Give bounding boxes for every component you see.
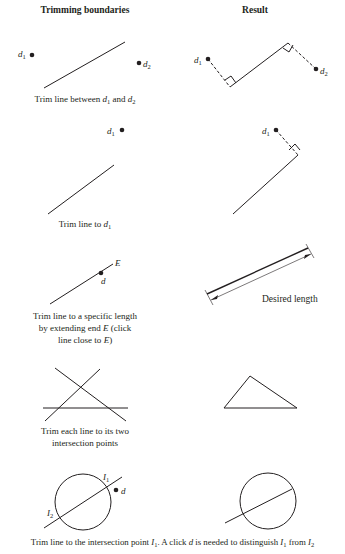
point-d2 xyxy=(137,61,142,66)
row2-dashed-d1 xyxy=(276,130,298,155)
point-d1-result xyxy=(274,128,279,133)
row2-result-line xyxy=(233,155,298,214)
label-result-d2: d2 xyxy=(320,66,328,79)
point-d2-result xyxy=(314,67,319,72)
label-I1: I1 xyxy=(103,472,109,485)
row1-line xyxy=(44,42,125,88)
row4-line-a xyxy=(55,368,126,421)
label-I2: I2 xyxy=(47,508,53,521)
row5-result-line xyxy=(225,489,292,523)
label-d: d xyxy=(101,276,106,286)
point-d1 xyxy=(30,53,35,58)
row1-result-line xyxy=(230,43,288,87)
label-d1: d1 xyxy=(18,49,26,62)
right-angle-icon xyxy=(225,76,236,83)
caption-row1: Trim line between d1 and d2 xyxy=(25,93,145,108)
caption-row3: Trim line to a specific length by extend… xyxy=(20,310,150,346)
caption-row4: Trim each line to its two intersection p… xyxy=(25,425,145,449)
diagram-canvas xyxy=(0,0,345,554)
row4-result-triangle xyxy=(224,376,297,408)
label-d1: d1 xyxy=(107,126,115,139)
label-d2: d2 xyxy=(143,59,151,72)
row5-line xyxy=(44,477,122,528)
caption-row2: Trim line to d1 xyxy=(40,218,130,233)
label-E: E xyxy=(115,258,121,268)
row1-dashed-d1 xyxy=(208,59,230,87)
label-desired-length: Desired length xyxy=(262,293,332,305)
point-d-click xyxy=(99,271,104,276)
caption-row5: Trim line to the intersection point I1. … xyxy=(0,536,345,551)
row2-line xyxy=(48,165,114,214)
point-d1 xyxy=(120,128,125,133)
arrowhead-icon xyxy=(211,295,218,300)
row3-extended-line xyxy=(207,248,308,294)
label-d: d xyxy=(121,486,126,496)
point-d-click xyxy=(114,488,119,493)
label-result-d1: d1 xyxy=(194,55,202,68)
point-d1-result xyxy=(206,57,211,62)
label-result-d1: d1 xyxy=(262,126,270,139)
